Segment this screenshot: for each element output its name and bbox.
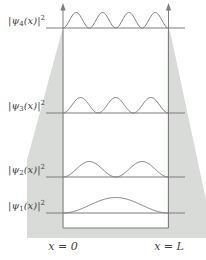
x-equals-L-label: x = L	[150, 240, 188, 253]
well-interior	[64, 0, 168, 228]
psi-1-label-sup: 2	[41, 199, 45, 207]
psi-2-label: |ψ2(x)|2	[0, 164, 45, 176]
psi-1-label: |ψ1(x)|2	[0, 200, 45, 212]
psi-4-label: |ψ4(x)|2	[0, 15, 45, 27]
psi-3-label-mid: (x)|	[24, 100, 41, 111]
psi-4-label-sup: 2	[41, 14, 45, 22]
psi-3-label-sup: 2	[41, 99, 45, 107]
psi-2-label-pre: |ψ	[8, 164, 19, 175]
psi-3-label-pre: |ψ	[8, 100, 19, 111]
psi-2-label-sup: 2	[41, 163, 45, 171]
psi-4-label-mid: (x)|	[24, 15, 41, 26]
psi-4-label-pre: |ψ	[8, 15, 19, 26]
quantum-well-figure: |ψ4(x)|2 |ψ3(x)|2 |ψ2(x)|2 |ψ1(x)|2 x = …	[0, 0, 206, 260]
psi-1-label-mid: (x)|	[24, 200, 41, 211]
diagram-svg	[0, 0, 206, 260]
psi-2-label-mid: (x)|	[24, 164, 41, 175]
psi-1-label-pre: |ψ	[8, 200, 19, 211]
psi-3-label: |ψ3(x)|2	[0, 100, 45, 112]
x-equals-0-label: x = 0	[44, 240, 82, 253]
